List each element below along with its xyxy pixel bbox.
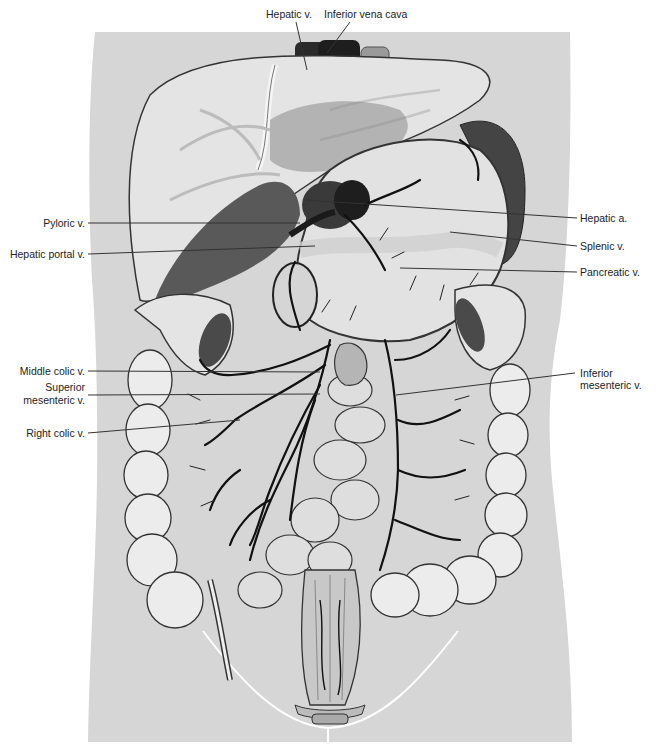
label-inferior-vena-cava: Inferior vena cava <box>324 8 407 20</box>
label-pancreatic-v: Pancreatic v. <box>580 266 640 278</box>
label-superior-mesenteric-v-line1: Superior <box>45 381 85 393</box>
label-hepatic-a: Hepatic a. <box>580 212 627 224</box>
label-hepatic-portal-v: Hepatic portal v. <box>10 248 85 260</box>
label-right-colic-v: Right colic v. <box>26 427 85 439</box>
hepatic-portal-system-illustration <box>0 0 660 753</box>
label-inferior-mesenteric-v-line1: Inferior <box>580 367 613 379</box>
label-middle-colic-v: Middle colic v. <box>20 365 85 377</box>
label-superior-mesenteric-v-line2: mesenteric v. <box>23 394 85 406</box>
label-pyloric-v: Pyloric v. <box>43 217 85 229</box>
label-splenic-v: Splenic v. <box>580 240 625 252</box>
label-inferior-mesenteric-v-line2: mesenteric v. <box>580 379 642 391</box>
label-hepatic-v: Hepatic v. <box>266 8 312 20</box>
